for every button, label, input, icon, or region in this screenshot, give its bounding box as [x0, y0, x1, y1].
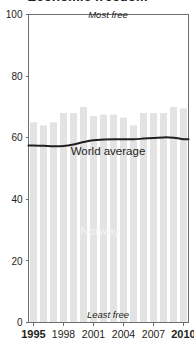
y-tick-label-20: 20	[11, 256, 23, 267]
y-axis-ticks: 020406080100	[6, 9, 29, 328]
y-tick-label-60: 60	[11, 132, 23, 143]
world-average-label: World average	[71, 145, 146, 157]
least-free-annotation: Least free	[87, 309, 129, 320]
x-tick-label-2007: 2007	[142, 328, 166, 340]
bar-2010	[180, 108, 187, 322]
bar-1996	[40, 125, 47, 322]
norway-series-label: Norway	[81, 225, 120, 237]
y-tick-label-100: 100	[6, 9, 23, 20]
most-free-annotation: Most free	[88, 9, 128, 20]
y-tick-label-80: 80	[11, 71, 23, 82]
bar-2008	[160, 113, 167, 322]
y-tick-label-40: 40	[11, 194, 23, 205]
bar-1998	[60, 113, 67, 322]
bar-2007	[150, 113, 157, 322]
x-tick-label-2004: 2004	[112, 328, 136, 340]
bar-1997	[50, 122, 57, 322]
x-tick-label-2001: 2001	[82, 328, 106, 340]
x-axis-ticks: 199519982001200420072010	[21, 323, 194, 340]
bar-1995	[30, 122, 37, 322]
bar-2009	[170, 107, 177, 323]
x-tick-label-1995: 1995	[21, 328, 45, 340]
y-tick-label-0: 0	[17, 317, 23, 328]
x-tick-label-1998: 1998	[52, 328, 76, 340]
plot-area: 020406080100 199519982001200420072010 Mo…	[0, 0, 194, 343]
bar-2000	[80, 107, 87, 323]
x-tick-label-2010: 2010	[171, 328, 194, 340]
economic-freedom-chart: Economic freedom 020406080100 1995199820…	[0, 0, 194, 343]
